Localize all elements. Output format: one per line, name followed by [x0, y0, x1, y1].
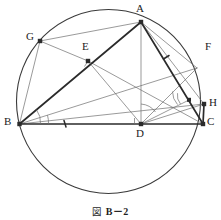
segment-ED [88, 61, 141, 124]
point-marker-C [201, 122, 205, 126]
point-label-D: D [136, 128, 144, 139]
angle-arc-at-B-lower [48, 115, 49, 124]
caption-text: B－2 [106, 206, 129, 217]
point-marker-D [139, 122, 143, 126]
segment-GE [40, 41, 88, 61]
segment-BH [20, 104, 205, 124]
tick-on-BD [64, 121, 66, 128]
point-label-G: G [26, 31, 34, 42]
point-label-H: H [209, 97, 217, 108]
point-marker-P [187, 98, 191, 102]
segment-AG [40, 22, 141, 41]
geometry-figure: A B C D E G F H 図B－2 [0, 0, 221, 220]
point-label-F: F [205, 41, 211, 52]
point-marker-A [139, 20, 143, 24]
point-marker-B [17, 122, 21, 126]
point-label-A: A [136, 3, 144, 14]
segment-BA [20, 22, 142, 124]
point-label-E: E [82, 41, 89, 52]
point-label-C: C [207, 116, 214, 127]
segment-DF [141, 68, 197, 124]
point-marker-H [202, 102, 206, 106]
point-marker-E [86, 59, 90, 63]
point-marker-G [38, 39, 42, 43]
segment-BF [20, 68, 198, 124]
circumcircle [17, 10, 201, 194]
point-label-B: B [4, 116, 11, 127]
segment-CH [203, 104, 204, 124]
segment-AF [141, 22, 197, 68]
angle-arc-at-P-upper [172, 92, 177, 105]
figure-caption: 図B－2 [0, 203, 221, 218]
angle-arc-at-P-lower [177, 93, 180, 104]
caption-symbol: 図 [92, 206, 102, 217]
